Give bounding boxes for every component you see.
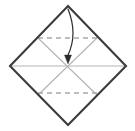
origami-fold-diagram: Origami fold step diagram Square sheet s…: [0, 0, 135, 131]
fold-diagram-canvas: Origami fold step diagram Square sheet s…: [0, 0, 135, 131]
